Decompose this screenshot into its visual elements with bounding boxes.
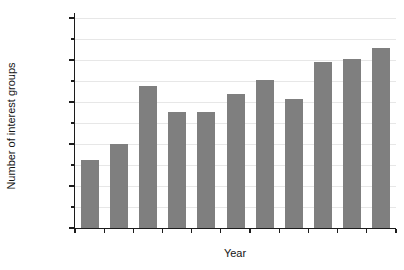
bar <box>110 144 128 228</box>
x-axis-line <box>74 228 396 229</box>
bar <box>227 94 245 228</box>
x-axis-tick <box>395 229 396 233</box>
bar <box>314 62 332 228</box>
bar <box>372 48 390 228</box>
bar <box>197 112 215 228</box>
bar <box>343 59 361 228</box>
x-axis-tick <box>104 229 105 233</box>
x-axis-tick <box>366 229 367 233</box>
x-axis-tick <box>162 229 163 233</box>
bar <box>256 80 274 228</box>
x-axis-tick <box>133 229 134 233</box>
gridline <box>75 39 396 40</box>
x-axis-tick <box>279 229 280 233</box>
gridline <box>75 18 396 19</box>
x-axis-title: Year <box>205 247 265 260</box>
x-axis-tick <box>249 229 250 233</box>
bar <box>168 112 186 228</box>
y-axis-line <box>74 13 75 229</box>
x-axis-tick <box>191 229 192 233</box>
bar <box>81 160 99 228</box>
x-axis-tick <box>74 229 75 233</box>
bar <box>285 99 303 228</box>
x-axis-tick <box>220 229 221 233</box>
plot-area <box>0 0 404 270</box>
x-axis-tick <box>337 229 338 233</box>
x-axis-tick <box>308 229 309 233</box>
bar <box>139 86 157 228</box>
interest-groups-bar-chart: Number of interest groups Year <box>0 0 404 270</box>
